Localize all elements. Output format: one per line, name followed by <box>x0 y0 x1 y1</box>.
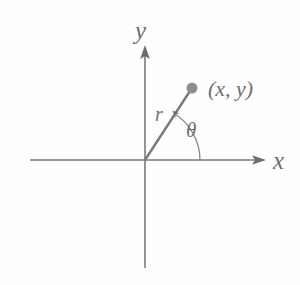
radius-ray-line <box>145 91 190 160</box>
point-coordinates-label: (x, y) <box>208 78 253 100</box>
point-marker <box>187 83 198 94</box>
angle-label: θ <box>186 120 196 141</box>
radius-ray <box>145 91 190 160</box>
x-axis-label: x <box>273 148 284 173</box>
polar-coordinate-diagram: y x r θ (x, y) <box>0 0 300 285</box>
radius-label: r <box>155 104 163 124</box>
diagram-canvas <box>0 0 300 285</box>
y-axis-label: y <box>135 18 146 43</box>
